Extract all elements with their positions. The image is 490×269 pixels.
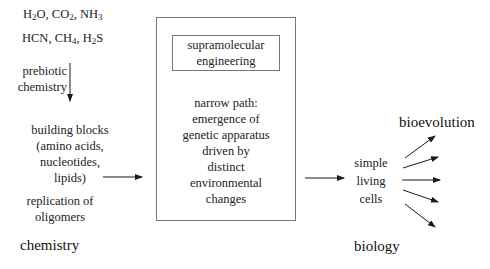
inner-box-line: supramolecular bbox=[172, 37, 280, 53]
narrow-path-line: distinct bbox=[156, 159, 296, 175]
prebiotic-chemistry-label: prebiotic chemistry bbox=[10, 63, 67, 95]
narrow-path-line: environmental bbox=[156, 175, 296, 191]
narrow-path-text: narrow path: emergence of genetic appara… bbox=[156, 95, 296, 207]
bioevolution-label: bioevolution bbox=[399, 114, 475, 130]
narrow-path-line: narrow path: bbox=[156, 95, 296, 111]
narrow-path-line: emergence of bbox=[156, 111, 296, 127]
chemistry-section-label: chemistry bbox=[20, 237, 79, 253]
fan-arrow-1 bbox=[405, 136, 435, 158]
replication-line: oligomers bbox=[5, 209, 115, 225]
cells-line: living bbox=[346, 172, 396, 190]
replication-text: replication of oligomers bbox=[5, 193, 115, 225]
fan-arrow-5 bbox=[405, 204, 435, 227]
supramolecular-engineering-text: supramolecular engineering bbox=[172, 37, 280, 69]
molecules-line-1: H2O, CO2, NH3 bbox=[23, 6, 103, 22]
fan-arrow-4 bbox=[403, 190, 438, 202]
molecules-line-2: HCN, CH4, H2S bbox=[22, 30, 103, 46]
building-blocks-line: nucleotides, bbox=[10, 154, 130, 170]
simple-living-cells-text: simple living cells bbox=[346, 154, 396, 208]
biology-section-label: biology bbox=[354, 238, 400, 254]
building-blocks-text: building blocks (amino acids, nucleotide… bbox=[10, 122, 130, 186]
fan-arrow-2 bbox=[403, 157, 438, 168]
inner-box-line: engineering bbox=[172, 53, 280, 69]
narrow-path-line: driven by bbox=[156, 143, 296, 159]
cells-line: cells bbox=[346, 190, 396, 208]
replication-line: replication of bbox=[5, 193, 115, 209]
prebiotic-label-line: prebiotic bbox=[10, 63, 67, 79]
building-blocks-line: building blocks bbox=[10, 122, 130, 138]
building-blocks-line: lipids) bbox=[10, 170, 130, 186]
building-blocks-line: (amino acids, bbox=[10, 138, 130, 154]
prebiotic-label-line: chemistry bbox=[10, 79, 67, 95]
cells-line: simple bbox=[346, 154, 396, 172]
narrow-path-line: genetic apparatus bbox=[156, 127, 296, 143]
narrow-path-line: changes bbox=[156, 191, 296, 207]
